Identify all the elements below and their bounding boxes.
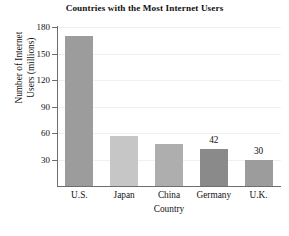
bar-china[interactable]: [155, 144, 183, 186]
bar-value-label: 30: [239, 147, 279, 156]
y-axis-tick-label: 30: [4, 156, 50, 165]
bar-u-k[interactable]: [245, 160, 273, 187]
y-axis-title-line-1: Number of Internet: [14, 0, 26, 143]
bar-value-label: 42: [194, 136, 234, 145]
bars-layer: [57, 20, 281, 186]
y-axis-title-line-2: Users (millions): [26, 0, 38, 143]
bar-u-s[interactable]: [65, 36, 93, 186]
bar-chart-figure: Countries with the Most Internet Users 3…: [0, 0, 289, 236]
x-axis-tick-label: U.K.: [233, 190, 285, 200]
bar-germany[interactable]: [200, 149, 228, 186]
x-axis-line: [57, 186, 281, 187]
y-axis-title: Number of Internet Users (millions): [14, 0, 37, 143]
x-axis-title: Country: [57, 204, 281, 214]
bar-japan[interactable]: [110, 136, 138, 186]
